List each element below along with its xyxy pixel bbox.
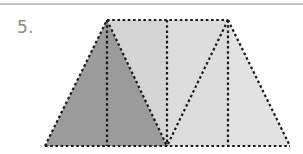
partitioned-trapezoid-figure [0,0,303,154]
worksheet-page: 5. [0,0,303,154]
